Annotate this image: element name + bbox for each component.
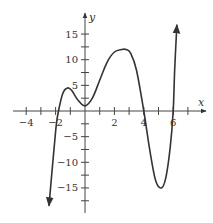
y-ticks: 15105−5−10−15 bbox=[57, 29, 89, 201]
x-axis-label: x bbox=[198, 96, 205, 109]
function-graph: −4−2246 15105−5−10−15 x y bbox=[0, 0, 213, 223]
y-tick-label: 10 bbox=[65, 54, 78, 65]
y-tick-label: −5 bbox=[63, 131, 78, 142]
function-curve bbox=[49, 25, 177, 206]
x-ticks: −4−2246 bbox=[19, 107, 188, 128]
y-tick-label: −10 bbox=[57, 157, 78, 168]
y-axis-label: y bbox=[88, 11, 96, 24]
y-tick-label: 15 bbox=[65, 29, 78, 40]
y-tick-label: 5 bbox=[72, 80, 78, 91]
x-tick-label: 2 bbox=[111, 117, 117, 128]
x-tick-label: −4 bbox=[19, 117, 34, 128]
curves bbox=[49, 25, 177, 206]
axes: −4−2246 15105−5−10−15 x y bbox=[13, 11, 206, 213]
y-tick-label: −15 bbox=[57, 182, 78, 193]
